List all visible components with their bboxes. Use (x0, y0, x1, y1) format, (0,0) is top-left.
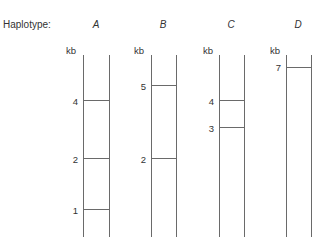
haplotype-title: Haplotype: (3, 19, 51, 30)
band-b-2kb-label: 2 (134, 154, 146, 165)
band-d-7kb-label: 7 (269, 62, 281, 73)
lane-c-left-line (219, 55, 220, 237)
haplotype-d-label: D (288, 19, 308, 30)
band-c-4kb (219, 100, 245, 101)
band-d-7kb (286, 67, 312, 68)
band-b-5kb (151, 85, 177, 86)
band-a-4kb-label: 4 (66, 96, 78, 107)
band-a-2kb-label: 2 (66, 154, 78, 165)
band-c-3kb (219, 127, 245, 128)
lane-b-right-line (176, 55, 177, 237)
band-c-3kb-label: 3 (202, 123, 214, 134)
band-a-1kb (83, 209, 110, 210)
band-a-1kb-label: 1 (66, 205, 78, 216)
haplotype-a-label: A (86, 19, 106, 30)
unit-label-a: kb (66, 45, 76, 56)
unit-label-c: kb (203, 45, 213, 56)
unit-label-d: kb (270, 45, 280, 56)
band-b-2kb (151, 158, 177, 159)
lane-d-right-line (311, 55, 312, 237)
unit-label-b: kb (134, 45, 144, 56)
lane-b-left-line (151, 55, 152, 237)
band-a-4kb (83, 100, 110, 101)
lane-d-left-line (286, 55, 287, 237)
haplotype-c-label: C (221, 19, 241, 30)
band-c-4kb-label: 4 (202, 96, 214, 107)
lane-c-right-line (244, 55, 245, 237)
band-a-2kb (83, 158, 110, 159)
haplotype-b-label: B (153, 19, 173, 30)
band-b-5kb-label: 5 (134, 81, 146, 92)
